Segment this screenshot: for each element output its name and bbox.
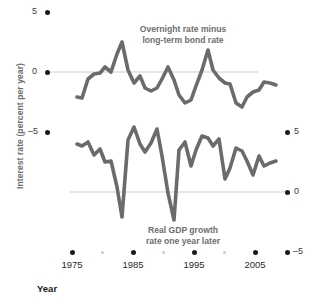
y-axis-right-tick-label-5: 5	[294, 126, 299, 136]
x-axis-tick-dot-2005	[253, 250, 258, 255]
x-axis-tick-dot-1975	[70, 250, 75, 255]
series-line-real-gdp-growth	[77, 127, 276, 220]
y-axis-left-tick-dot-5	[45, 10, 50, 15]
x-axis-tick-label-1975: 1975	[57, 259, 87, 270]
y-axis-right-tick-label-minus5: –5	[293, 246, 303, 256]
annotation-overnight-minus-bond: Overnight rate minus long-term bond rate	[108, 24, 258, 46]
x-axis-tick-dot-1985	[131, 250, 136, 255]
y-axis-left-title: Interest rate (percent per year)	[15, 46, 25, 206]
annotation-real-gdp-growth: Real GDP growth rate one year later	[118, 225, 248, 247]
x-axis-tick-dot-1995	[192, 250, 197, 255]
y-axis-right-tick-dot-0	[285, 190, 290, 195]
y-axis-left-tick-dot-minus5	[45, 130, 50, 135]
y-axis-left-tick-label-0: 0	[32, 66, 37, 76]
x-axis-minor-tick-dot-1980	[101, 251, 104, 254]
x-axis-minor-tick-dot-1990	[162, 251, 165, 254]
x-axis-tick-label-1985: 1985	[118, 259, 148, 270]
y-axis-left-tick-label-5: 5	[32, 6, 37, 16]
y-axis-right-tick-label-0: 0	[294, 186, 299, 196]
series-line-overnight-minus-bond	[77, 42, 276, 107]
x-axis-minor-tick-dot-2000	[223, 251, 226, 254]
x-axis-title: Year	[37, 283, 57, 294]
y-axis-right-tick-dot-5	[285, 130, 290, 135]
y-axis-left-tick-dot-0	[45, 70, 50, 75]
y-axis-right-tick-dot-minus5	[285, 250, 290, 255]
chart-container: Interest rate (percent per year) 5 0 –5 …	[0, 0, 326, 302]
x-axis-tick-label-1995: 1995	[179, 259, 209, 270]
x-axis-tick-label-2005: 2005	[240, 259, 270, 270]
y-axis-left-tick-label-minus5: –5	[28, 126, 38, 136]
